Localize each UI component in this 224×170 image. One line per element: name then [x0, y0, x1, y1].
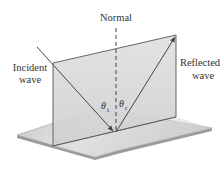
svg-text:θ: θ [101, 100, 106, 111]
svg-text:i: i [107, 106, 109, 114]
incident-wave-label-line2: wave [19, 74, 41, 85]
normal-label: Normal [100, 12, 132, 23]
reflection-diagram: Normal Incident wave Reflected wave θ i … [0, 0, 224, 170]
incident-wave-label-line1: Incident [13, 62, 47, 73]
reflected-wave-label-line1: Reflected [180, 57, 221, 68]
svg-text:θ: θ [119, 98, 124, 109]
reflected-wave-label-line2: wave [192, 70, 214, 81]
